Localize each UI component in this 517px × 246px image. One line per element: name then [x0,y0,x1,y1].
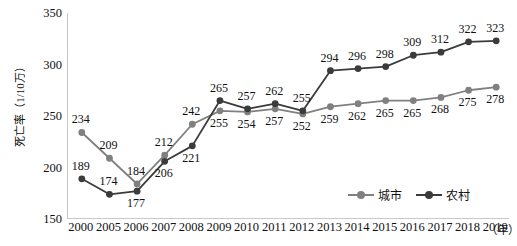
legend-item-urban[interactable]: 城市 [348,186,402,203]
data-point-label: 174 [99,175,117,187]
data-point-marker [327,103,334,110]
x-axis-tick: 2000 [68,221,93,234]
data-point-label: 206 [155,167,173,179]
x-axis-tick: 2016 [400,221,425,234]
x-axis-tick: 2010 [234,221,259,234]
data-point-label: 221 [182,152,200,164]
data-point-label: 296 [348,50,366,62]
data-point-marker [355,65,362,72]
x-axis-tick-labels: 2000200520062007200820092010201120122013… [67,221,509,241]
data-point-label: 322 [459,23,477,35]
data-point-label: 309 [403,36,421,48]
legend-label: 农村 [446,186,470,203]
data-point-label: 257 [238,90,256,102]
x-axis-tick: 2006 [124,221,149,234]
y-axis-tick: 300 [28,59,62,72]
data-point-label: 312 [431,33,449,45]
data-point-marker [493,37,500,44]
data-point-marker [106,155,113,162]
y-axis-tick: 150 [28,213,62,226]
chart-legend: 城市农村 [348,186,470,203]
x-axis-tick: 2005 [96,221,121,234]
data-point-marker [217,107,224,114]
data-point-label: 177 [127,197,145,209]
data-point-marker [410,52,417,59]
data-point-marker [161,152,168,159]
data-point-label: 257 [265,115,283,127]
y-axis-tick: 200 [28,162,62,175]
data-point-label: 298 [376,48,394,60]
x-axis-tick: 2014 [345,221,370,234]
legend-marker-icon [416,190,442,200]
data-point-label: 262 [348,110,366,122]
data-point-label: 234 [72,113,90,125]
data-point-marker [410,97,417,104]
data-point-label: 254 [238,118,256,130]
data-point-marker [327,67,334,74]
data-point-marker [134,188,141,195]
data-point-marker [465,87,472,94]
x-axis-tick: 2017 [427,221,452,234]
data-point-label: 209 [99,139,117,151]
data-point-marker [244,105,251,112]
data-point-label: 212 [155,136,173,148]
data-point-label: 275 [459,96,477,108]
x-axis-tick: 2008 [179,221,204,234]
data-point-label: 265 [376,107,394,119]
data-point-marker [217,97,224,104]
data-point-marker [161,158,168,165]
x-axis-unit-label: （年） [486,221,517,237]
legend-label: 城市 [378,186,402,203]
data-point-marker [106,191,113,198]
data-point-label: 265 [403,107,421,119]
y-axis-label: 死亡率（1/10万） [11,44,27,164]
data-point-marker [189,121,196,128]
mortality-rate-line-chart: 死亡率（1/10万） 150200250300350 2000200520062… [0,0,517,246]
data-point-marker [438,94,445,101]
data-point-marker [189,142,196,149]
x-axis-tick: 2007 [151,221,176,234]
data-point-marker [272,100,279,107]
data-point-label: 189 [72,160,90,172]
data-point-label: 255 [293,92,311,104]
data-point-marker [355,100,362,107]
x-axis-tick: 2015 [372,221,397,234]
data-point-marker [78,175,85,182]
data-point-label: 252 [293,120,311,132]
x-axis-tick: 2009 [206,221,231,234]
data-point-marker [134,181,141,188]
data-point-marker [382,63,389,70]
data-point-marker [438,49,445,56]
y-axis-tick: 250 [28,110,62,123]
y-axis-tick-labels: 150200250300350 [26,0,62,246]
x-axis-tick: 2013 [317,221,342,234]
data-point-label: 184 [127,165,145,177]
legend-item-rural[interactable]: 农村 [416,186,470,203]
data-point-label: 262 [265,85,283,97]
y-axis-tick: 350 [28,7,62,20]
data-point-label: 294 [320,52,338,64]
x-axis-tick: 2018 [455,221,480,234]
x-axis-tick: 2011 [262,221,287,234]
data-point-label: 265 [210,82,228,94]
data-point-marker [299,107,306,114]
data-point-marker [465,38,472,45]
legend-marker-icon [348,190,374,200]
data-point-label: 259 [320,113,338,125]
data-point-label: 268 [431,103,449,115]
x-axis-tick: 2012 [289,221,314,234]
data-point-label: 255 [210,117,228,129]
data-point-label: 278 [486,93,504,105]
data-point-marker [382,97,389,104]
data-point-marker [493,84,500,91]
data-point-label: 323 [486,22,504,34]
data-point-label: 242 [182,105,200,117]
data-point-marker [78,129,85,136]
